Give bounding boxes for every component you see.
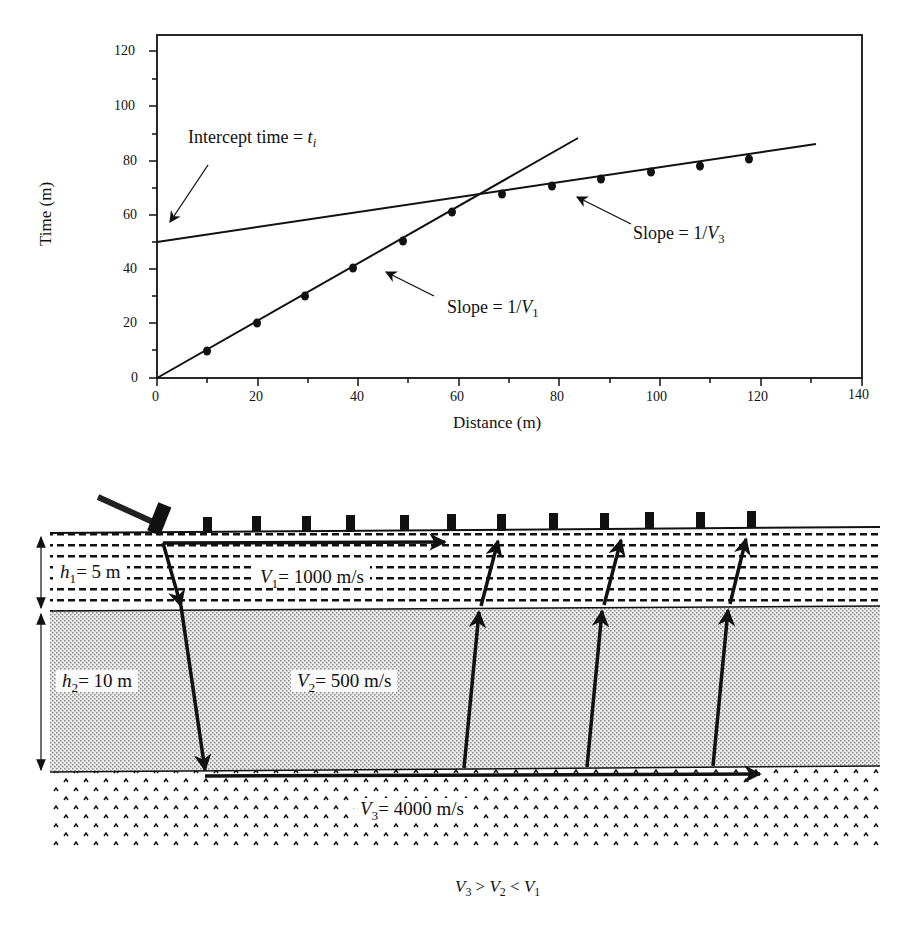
- x-tick-label: 100: [646, 389, 667, 405]
- x-tick-label: 0: [152, 389, 159, 405]
- x-tick-label: 120: [747, 389, 768, 405]
- direct-ray: [163, 542, 445, 543]
- y-tick-label: 40: [123, 261, 137, 277]
- intercept-time-label: Intercept time = ti: [188, 127, 316, 148]
- v3-label: V3= 4000 m/s: [354, 798, 470, 820]
- v1-label: V1= 1000 m/s: [254, 566, 370, 588]
- hammer-icon: [98, 497, 171, 535]
- direct-wave-line: [157, 138, 578, 378]
- layer-1-fill: [50, 527, 880, 611]
- slope3-arrow: [577, 197, 631, 224]
- travel-time-chart: [149, 35, 862, 386]
- slope-v1-label: Slope = 1/V1: [447, 297, 538, 318]
- x-axis-ticks: [157, 378, 862, 386]
- h1-label: h1= 5 m: [54, 561, 127, 583]
- x-tick-label: 40: [350, 389, 364, 405]
- x-tick-label: 20: [249, 389, 263, 405]
- plot-frame: [157, 35, 862, 378]
- v2-label: V2= 500 m/s: [291, 670, 397, 692]
- y-tick-label: 80: [123, 153, 137, 169]
- refraction-figure: [0, 0, 918, 925]
- h2-label: h2= 10 m: [56, 670, 138, 692]
- velocity-relation: V3 > V2 < V1: [455, 877, 540, 897]
- x-tick-label: 80: [550, 389, 564, 405]
- y-tick-label: 60: [123, 207, 137, 223]
- refracted-ray: [205, 774, 760, 776]
- y-tick-label: 20: [123, 315, 137, 331]
- y-axis-ticks: [149, 51, 157, 378]
- y-tick-label: 100: [114, 98, 135, 114]
- y-axis-title: Time (m): [36, 182, 56, 246]
- x-tick-label: 60: [450, 389, 464, 405]
- y-tick-label: 0: [131, 370, 138, 386]
- slope1-arrow: [386, 272, 434, 296]
- intercept-arrow: [170, 165, 208, 222]
- x-axis-title: Distance (m): [453, 413, 541, 433]
- slope-v3-label: Slope = 1/V3: [633, 223, 724, 244]
- y-tick-label: 120: [114, 43, 135, 59]
- data-points: [203, 155, 753, 356]
- x-tick-label: 140: [848, 387, 869, 403]
